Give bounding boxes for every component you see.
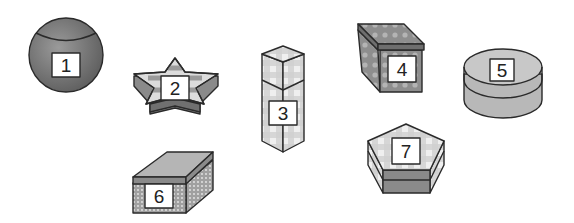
label-5: 5: [497, 60, 508, 81]
label-6: 6: [154, 186, 165, 207]
label-4: 4: [397, 59, 408, 80]
gift-5-cylinder: 5: [464, 49, 542, 118]
gift-3-prism: 3: [262, 46, 304, 152]
gift-boxes-diagram: 1 2 3 4 5: [0, 0, 574, 223]
label-3: 3: [278, 103, 289, 124]
gift-1-sphere: 1: [29, 18, 103, 92]
label-1: 1: [61, 55, 72, 76]
gift-2-star: 2: [134, 58, 218, 114]
label-7: 7: [401, 141, 412, 162]
label-2: 2: [170, 78, 181, 99]
gift-7-pentagon: 7: [368, 124, 444, 193]
gift-4-cube: 4: [358, 24, 424, 92]
gift-6-box: 6: [133, 152, 213, 213]
